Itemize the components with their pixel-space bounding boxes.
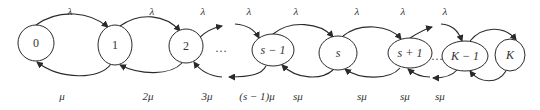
arc-s-sm1 xyxy=(282,65,333,77)
mu-label: sμ xyxy=(293,90,303,102)
node-label: K xyxy=(505,48,515,62)
lambda-label: λ xyxy=(200,5,206,17)
lambda-label: λ xyxy=(400,5,406,17)
mu-label: μ xyxy=(58,90,65,102)
arc-k-km1 xyxy=(470,71,506,81)
mu-label: sμ xyxy=(357,90,367,102)
lambda-label: λ xyxy=(246,5,252,17)
arc-s1-dots xyxy=(410,27,432,38)
mu-label: sμ xyxy=(435,90,445,102)
node-s-plus-1: s + 1 xyxy=(388,38,432,68)
arc-dots-sm1 xyxy=(235,24,259,38)
mu-label: 2μ xyxy=(142,90,154,102)
arc-dots-s1 xyxy=(408,69,430,77)
state-transition-diagram: 0 1 2 … s − 1 s s + 1 … K − 1 K λ λ λ λ … xyxy=(0,0,540,110)
arc-2-dots xyxy=(199,26,222,38)
node-s: s xyxy=(319,36,357,70)
arc-s1-s xyxy=(345,68,400,77)
lambda-label: λ xyxy=(442,5,448,17)
lambda-label: λ xyxy=(149,5,155,17)
node-label: s xyxy=(336,46,341,60)
arc-dots-2 xyxy=(194,62,222,77)
lambda-label: λ xyxy=(67,5,73,17)
ellipsis: … xyxy=(215,41,227,55)
node-label: 2 xyxy=(183,39,189,53)
node-2: 2 xyxy=(169,29,203,63)
mu-label: 3μ xyxy=(200,90,213,102)
arc-2-1 xyxy=(120,63,182,73)
arc-dots-km1 xyxy=(441,24,462,41)
arc-1-2 xyxy=(120,17,180,31)
node-k: K xyxy=(495,39,525,71)
node-k-minus-1: K − 1 xyxy=(442,41,488,71)
node-1: 1 xyxy=(98,25,132,65)
arrival-labels: λ λ λ λ λ λ λ λ xyxy=(67,5,448,17)
lambda-label: λ xyxy=(354,5,360,17)
mu-label: sμ xyxy=(400,90,410,102)
node-label: K − 1 xyxy=(450,49,479,63)
arc-s-s1 xyxy=(343,27,401,39)
lambda-label: λ xyxy=(293,5,299,17)
service-labels: μ 2μ 3μ (s − 1)μ sμ sμ sμ sμ xyxy=(58,90,445,103)
mu-label: (s − 1)μ xyxy=(239,90,275,103)
node-label: 1 xyxy=(112,38,118,52)
node-label: 0 xyxy=(33,36,39,50)
node-label: s + 1 xyxy=(398,46,423,60)
node-s-minus-1: s − 1 xyxy=(252,34,294,66)
ellipsis: … xyxy=(431,49,443,63)
node-0: 0 xyxy=(18,25,54,61)
arc-sm1-dots xyxy=(229,66,266,77)
arc-km1-dots xyxy=(433,70,457,78)
node-label: s − 1 xyxy=(261,43,286,57)
arc-1-0 xyxy=(37,62,111,76)
